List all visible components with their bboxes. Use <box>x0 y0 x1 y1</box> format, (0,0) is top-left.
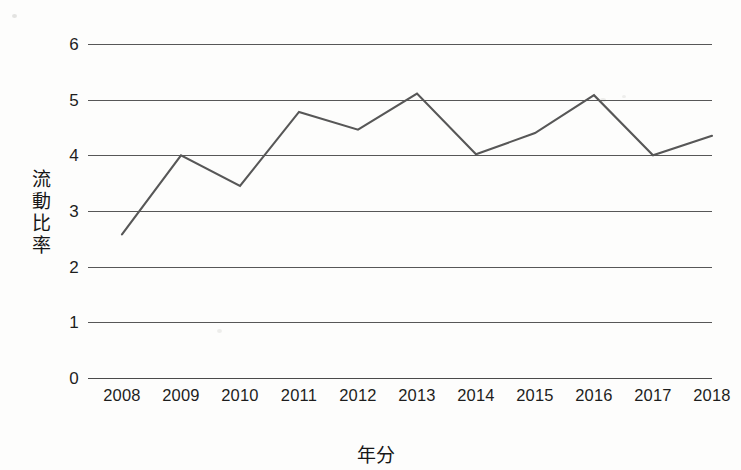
y-axis-title-char: 率 <box>26 234 56 256</box>
scan-speckle <box>12 14 17 18</box>
y-axis-title: 流 動 比 率 <box>26 168 56 256</box>
x-axis-tick-label: 2009 <box>162 386 200 405</box>
x-axis-tick-label: 2013 <box>398 386 436 405</box>
gridline-0: 0 <box>88 378 712 379</box>
plot-area: 0123456 <box>88 44 712 378</box>
y-axis-tick-label: 3 <box>69 202 79 222</box>
y-axis-title-char: 動 <box>26 190 56 212</box>
y-axis-tick-label: 2 <box>69 258 79 278</box>
x-axis-tick-label: 2017 <box>634 386 672 405</box>
x-axis-tick-label: 2011 <box>281 386 317 405</box>
x-axis-tick-label: 2010 <box>221 386 259 405</box>
x-axis-title: 年分 <box>0 440 741 467</box>
y-axis-tick-label: 6 <box>69 35 79 55</box>
x-axis-title-text: 年分 <box>357 444 395 466</box>
x-axis-tick-label: 2012 <box>339 386 377 405</box>
y-axis-tick-label: 0 <box>69 369 79 389</box>
line-series-path <box>122 94 712 235</box>
x-axis-tick-label: 2015 <box>516 386 554 405</box>
x-axis-tick-labels: 2008200920102011201220132014201520162017… <box>88 386 712 410</box>
line-series-svg <box>88 44 712 378</box>
x-axis-tick-label: 2014 <box>457 386 495 405</box>
chart-page: 流 動 比 率 0123456 200820092010201120122013… <box>0 0 741 470</box>
y-axis-tick-label: 4 <box>69 146 79 166</box>
x-axis-tick-label: 2018 <box>693 386 731 405</box>
y-axis-tick-label: 1 <box>69 313 79 333</box>
x-axis-tick-label: 2008 <box>103 386 141 405</box>
y-axis-title-char: 比 <box>26 212 56 234</box>
y-axis-title-char: 流 <box>26 168 56 190</box>
y-axis-tick-label: 5 <box>69 91 79 111</box>
x-axis-tick-label: 2016 <box>575 386 613 405</box>
